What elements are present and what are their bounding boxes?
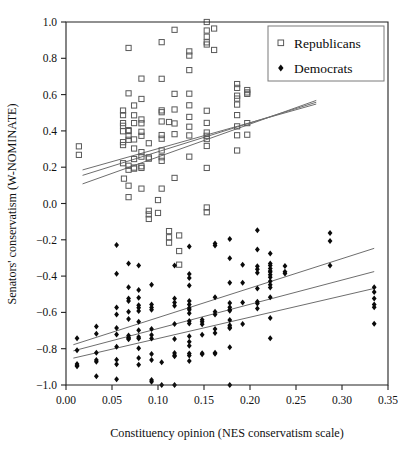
republican-point (131, 113, 136, 118)
democrat-point (255, 305, 260, 311)
republican-point (235, 85, 240, 90)
republican-point (166, 119, 171, 124)
republican-point (126, 91, 131, 96)
x-axis-title: Constituency opinion (NES conservatism s… (110, 426, 344, 440)
republican-point (139, 164, 144, 169)
democrat-point (268, 315, 273, 321)
republican-point (139, 96, 144, 101)
democrat-point (328, 238, 333, 244)
republican-point (159, 158, 164, 163)
republican-point (204, 120, 209, 125)
x-tick-label: 0.30 (332, 394, 352, 406)
republican-point (172, 121, 177, 126)
republican-point (204, 108, 209, 113)
democrat-point (75, 335, 80, 341)
democrat-point (94, 331, 99, 337)
republican-point (235, 81, 240, 86)
republican-point (235, 113, 240, 118)
republican-point (235, 148, 240, 153)
y-tick-label: 0.2 (43, 161, 58, 173)
republican-point (172, 175, 177, 180)
x-tick-label: 0.10 (148, 394, 168, 406)
republican-point (76, 144, 81, 149)
republican-point (159, 136, 164, 141)
republican-point (139, 117, 144, 122)
republican-point (139, 165, 144, 170)
democrat-point (136, 345, 141, 351)
democrat-point (200, 351, 205, 357)
republican-point (166, 240, 171, 245)
y-tick-label: −0.2 (36, 234, 57, 246)
democrat-point (126, 316, 131, 322)
democrat-point (227, 325, 232, 331)
democrat-point (213, 330, 218, 336)
republican-point (166, 228, 171, 233)
democrat-point (172, 321, 177, 327)
x-tick-label: 0.00 (56, 394, 76, 406)
regression-line (73, 288, 374, 358)
republican-point (204, 34, 209, 39)
republican-point (131, 137, 136, 142)
democrat-point (94, 350, 99, 356)
y-tick-label: −1.0 (36, 379, 57, 391)
x-tick-label: 0.15 (194, 394, 214, 406)
republican-point (172, 132, 177, 137)
democrat-point (283, 263, 288, 269)
democrat-point (240, 262, 245, 268)
democrat-point (240, 280, 245, 286)
republican-point (155, 197, 160, 202)
republican-point (120, 129, 125, 134)
democrat-point (136, 362, 141, 368)
democrat-point (227, 236, 232, 242)
republican-point (159, 40, 164, 45)
republican-point (126, 45, 131, 50)
democrat-point (372, 295, 377, 301)
republican-point (159, 132, 164, 137)
democrat-point (255, 270, 260, 276)
republican-point (245, 91, 250, 96)
democrat-point (136, 295, 141, 301)
republican-point (177, 248, 182, 253)
democrat-point (268, 251, 273, 257)
x-tick-label: 0.35 (378, 394, 398, 406)
republican-point (139, 76, 144, 81)
democrat-point (114, 305, 119, 311)
republican-point (187, 68, 192, 73)
democrat-point (187, 283, 192, 289)
regression-lines-layer (73, 100, 374, 358)
democrat-point (187, 244, 192, 250)
democrat-point (136, 355, 141, 361)
democrat-point (149, 282, 154, 288)
legend-label-republicans: Republicans (294, 36, 361, 51)
y-axis-title: Senators' conservatism (W-NOMINATE) (5, 103, 19, 304)
y-tick-label: 0.8 (43, 52, 58, 64)
republican-point (172, 107, 177, 112)
republican-point (159, 186, 164, 191)
y-tick-label: 1.0 (43, 16, 58, 28)
legend-label-democrats: Democrats (294, 61, 352, 76)
democrat-point (187, 275, 192, 281)
democrat-point (114, 311, 119, 317)
democrat-point (126, 309, 131, 315)
democrat-point (200, 332, 205, 338)
x-tick-label: 0.05 (102, 394, 122, 406)
y-tick-label: −0.8 (36, 343, 57, 355)
republican-point (172, 27, 177, 32)
republican-point (76, 152, 81, 157)
y-tick-label: 0.4 (43, 125, 58, 137)
democrat-point (126, 261, 131, 267)
democrat-point (172, 336, 177, 342)
democrat-point (227, 308, 232, 314)
republican-point (126, 195, 131, 200)
regression-line (73, 248, 374, 344)
republican-point (159, 108, 164, 113)
republican-point (146, 141, 151, 146)
democrat-point (227, 280, 232, 286)
democrat-point (114, 361, 119, 367)
republican-point (139, 121, 144, 126)
democrat-point (94, 324, 99, 330)
democrat-point (136, 287, 141, 293)
republican-point (131, 103, 136, 108)
republican-point (187, 103, 192, 108)
democrat-point (227, 255, 232, 261)
